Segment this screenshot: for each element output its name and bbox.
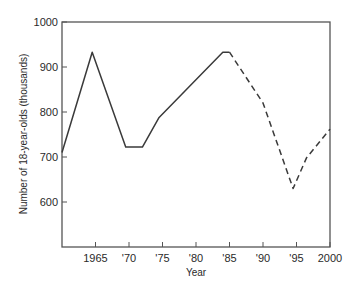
x-tick-label: '80 (189, 252, 203, 264)
x-axis-title: Year (186, 267, 207, 278)
series-line-actual (62, 52, 230, 152)
x-tick-label: '95 (289, 252, 303, 264)
x-tick-label: 1965 (83, 252, 107, 264)
x-tick-label: '75 (155, 252, 169, 264)
y-tick-label: 900 (40, 61, 58, 73)
x-tick-label: '90 (256, 252, 270, 264)
data-lines (62, 52, 330, 188)
y-tick-label: 1000 (34, 16, 58, 28)
y-tick-label: 700 (40, 151, 58, 163)
x-tick-label: 2000 (318, 252, 342, 264)
series-line-projected (230, 52, 331, 188)
x-tick-label: '85 (222, 252, 236, 264)
plot-frame (62, 22, 330, 247)
y-axis-title: Number of 18-year-olds (thousands) (18, 54, 29, 215)
x-axis: 1965'70'75'80'85'90'952000 (83, 242, 342, 264)
plot-border (62, 22, 330, 247)
y-tick-label: 600 (40, 196, 58, 208)
y-tick-label: 800 (40, 106, 58, 118)
line-chart: 6007008009001000 1965'70'75'80'85'90'952… (0, 0, 362, 287)
x-tick-label: '70 (122, 252, 136, 264)
